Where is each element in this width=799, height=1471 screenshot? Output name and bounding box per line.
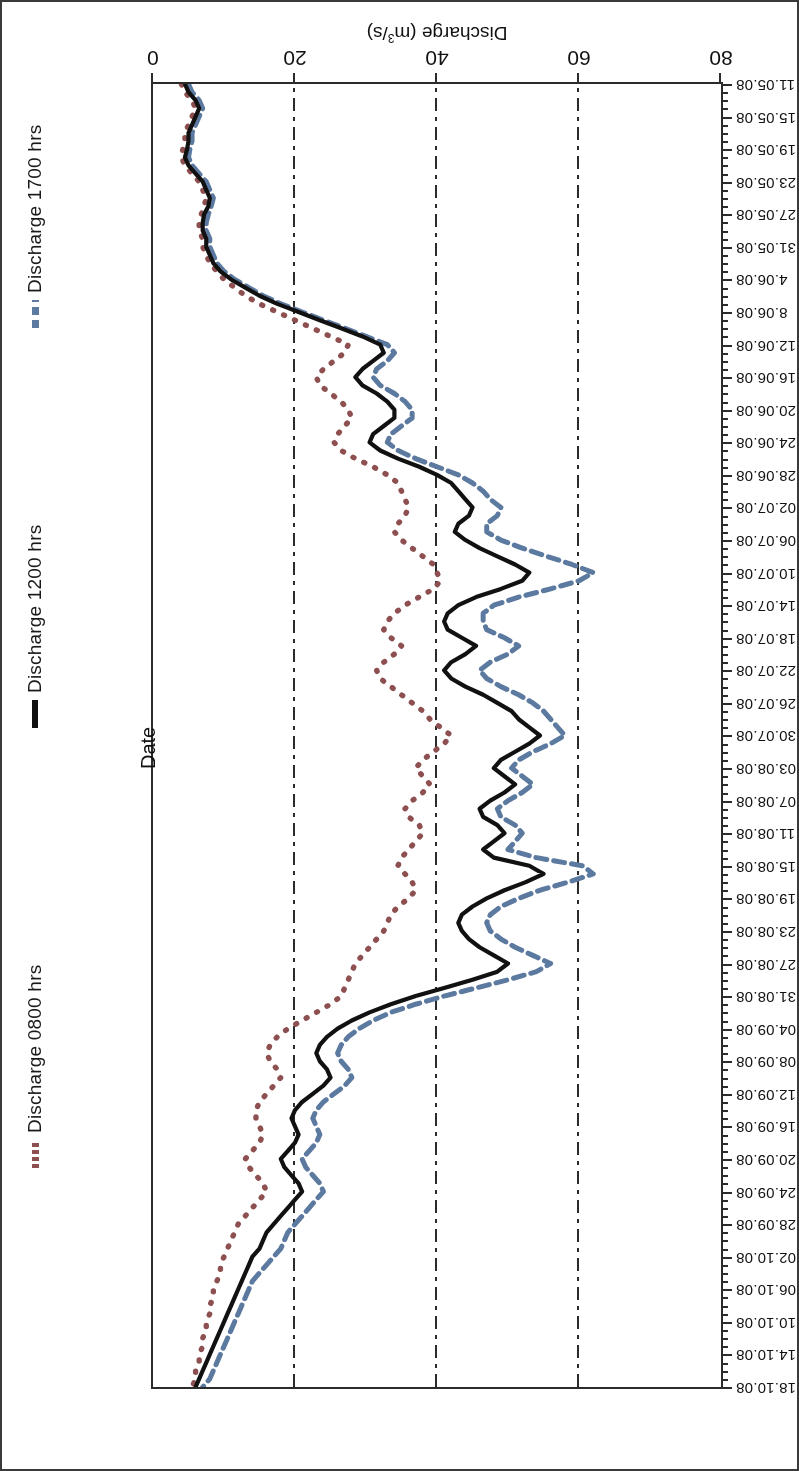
date-tick-minor: [723, 361, 728, 363]
date-tick-label: 16.09.08: [736, 1120, 796, 1137]
date-tick-minor: [723, 296, 728, 298]
date-tick-minor: [723, 1363, 728, 1365]
date-tick-minor: [723, 100, 728, 102]
date-tick-label: 11.08.08: [736, 827, 795, 844]
date-tick-minor: [723, 874, 728, 876]
date-tick-major: [723, 377, 732, 379]
date-tick-minor: [723, 369, 728, 371]
discharge-tick-0: [151, 73, 153, 82]
date-tick-minor: [723, 817, 728, 819]
date-tick-minor: [723, 459, 728, 461]
date-tick-minor: [723, 353, 728, 355]
date-tick-minor: [723, 613, 728, 615]
date-tick-minor: [723, 1135, 728, 1137]
date-tick-minor: [723, 1232, 728, 1234]
date-tick-minor: [723, 654, 728, 656]
date-tick-label: 22.07.08: [736, 664, 796, 681]
rotated-figure-wrapper: Discharge 0800 hrsDischarge 1200 hrsDisc…: [2, 2, 797, 1469]
date-tick-minor: [723, 1102, 728, 1104]
date-tick-label: 28.06.08: [736, 468, 796, 485]
discharge-hydrograph-figure: Discharge 0800 hrsDischarge 1200 hrsDisc…: [2, 2, 797, 1469]
date-tick-minor: [723, 988, 728, 990]
date-tick-label: 12.06.08: [736, 338, 796, 355]
date-tick-major: [723, 1192, 732, 1194]
date-tick-major: [723, 1094, 732, 1096]
date-tick-minor: [723, 263, 728, 265]
date-tick-minor: [723, 467, 728, 469]
legend-label: Discharge 0800 hrs: [24, 965, 46, 1133]
date-tick-minor: [723, 548, 728, 550]
series-line-discharge-1700-hrs: [189, 84, 594, 1387]
date-tick-minor: [723, 1078, 728, 1080]
date-tick-minor: [723, 1240, 728, 1242]
date-tick-minor: [723, 108, 728, 110]
date-tick-minor: [723, 744, 728, 746]
date-tick-major: [723, 638, 732, 640]
date-tick-minor: [723, 320, 728, 322]
date-tick-minor: [723, 581, 728, 583]
date-tick-major: [723, 1159, 732, 1161]
date-tick-minor: [723, 809, 728, 811]
date-tick-label: 20.06.08: [736, 403, 796, 420]
date-tick-minor: [723, 1371, 728, 1373]
date-tick-minor: [723, 336, 728, 338]
date-tick-minor: [723, 858, 728, 860]
discharge-axis-title-tail: /s): [367, 23, 388, 44]
date-tick-minor: [723, 385, 728, 387]
date-axis: 11.05.0815.05.0819.05.0823.05.0827.05.08…: [723, 82, 797, 1389]
date-tick-minor: [723, 288, 728, 290]
discharge-axis-title-exponent: 3: [388, 31, 395, 45]
date-tick-minor: [723, 157, 728, 159]
series-line-discharge-0800-hrs: [181, 84, 451, 1387]
date-tick-major: [723, 605, 732, 607]
discharge-tick-60: [577, 73, 579, 82]
date-tick-minor: [723, 231, 728, 233]
date-tick-minor: [723, 947, 728, 949]
date-tick-minor: [723, 727, 728, 729]
date-tick-minor: [723, 752, 728, 754]
date-tick-minor: [723, 1200, 728, 1202]
date-tick-minor: [723, 923, 728, 925]
date-tick-minor: [723, 239, 728, 241]
date-tick-minor: [723, 1183, 728, 1185]
discharge-tick-label-40: 40: [425, 46, 448, 70]
date-tick-minor: [723, 1314, 728, 1316]
plot-inner: [153, 84, 721, 1387]
date-tick-label: 8.06.08: [736, 306, 787, 323]
date-tick-major: [723, 247, 732, 249]
date-tick-major: [723, 312, 732, 314]
date-tick-minor: [723, 304, 728, 306]
date-tick-minor: [723, 499, 728, 501]
discharge-tick-label-60: 60: [567, 46, 590, 70]
legend-swatch-icon: [32, 300, 39, 328]
chart-legend: Discharge 0800 hrsDischarge 1200 hrsDisc…: [6, 2, 64, 1469]
date-tick-minor: [723, 793, 728, 795]
date-tick-minor: [723, 450, 728, 452]
date-tick-label: 12.09.08: [736, 1087, 796, 1104]
date-tick-minor: [723, 825, 728, 827]
date-tick-label: 08.09.08: [736, 1055, 796, 1072]
date-tick-minor: [723, 597, 728, 599]
legend-swatch-icon: [32, 700, 38, 728]
date-tick-major: [723, 931, 732, 933]
date-tick-label: 30.07.08: [736, 729, 796, 746]
date-tick-major: [723, 182, 732, 184]
date-tick-label: 27.08.08: [736, 957, 796, 974]
date-tick-label: 24.06.08: [736, 436, 796, 453]
date-tick-major: [723, 540, 732, 542]
legend-swatch-icon: [32, 1140, 39, 1168]
date-tick-minor: [723, 190, 728, 192]
date-tick-major: [723, 833, 732, 835]
date-tick-minor: [723, 483, 728, 485]
date-tick-label: 10.07.08: [736, 566, 796, 583]
date-tick-major: [723, 866, 732, 868]
date-tick-minor: [723, 524, 728, 526]
date-tick-major: [723, 149, 732, 151]
date-tick-minor: [723, 630, 728, 632]
figure-page: Discharge 0800 hrsDischarge 1200 hrsDisc…: [0, 0, 799, 1471]
date-tick-minor: [723, 1143, 728, 1145]
date-tick-minor: [723, 1273, 728, 1275]
date-tick-minor: [723, 434, 728, 436]
date-tick-minor: [723, 328, 728, 330]
date-tick-minor: [723, 165, 728, 167]
